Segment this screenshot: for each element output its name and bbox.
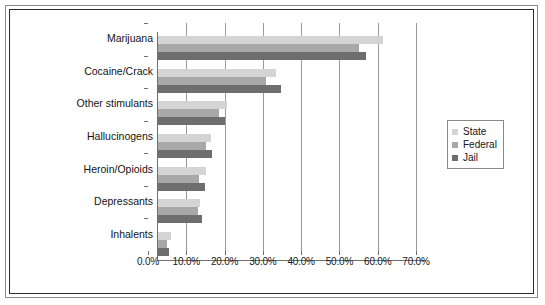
bar-federal bbox=[158, 207, 198, 215]
bar-federal bbox=[158, 175, 199, 183]
bar-state bbox=[158, 101, 227, 109]
legend-swatch-icon bbox=[452, 129, 458, 135]
legend-label: Federal bbox=[463, 139, 497, 150]
y-axis-category-label: Cocaine/Crack bbox=[13, 65, 153, 77]
bar-jail bbox=[158, 183, 205, 191]
bar-jail bbox=[158, 52, 366, 60]
bar-state bbox=[158, 36, 383, 44]
y-axis-category-label: Inhalents bbox=[13, 228, 153, 240]
legend-swatch-icon bbox=[452, 155, 458, 161]
y-axis-tick bbox=[144, 88, 148, 89]
y-axis-tick bbox=[144, 186, 148, 187]
bar-jail bbox=[158, 215, 202, 223]
y-axis-category-label: Hallucinogens bbox=[13, 130, 153, 142]
y-axis-category-label: Heroin/Opioids bbox=[13, 163, 153, 175]
legend-item-federal: Federal bbox=[452, 138, 497, 151]
y-axis-category-labels: MarijuanaCocaine/CrackOther stimulantsHa… bbox=[10, 10, 153, 260]
y-axis-tick bbox=[144, 23, 148, 24]
legend-item-jail: Jail bbox=[452, 151, 497, 164]
bar-federal bbox=[158, 44, 359, 52]
bar-federal bbox=[158, 240, 167, 248]
y-axis-category-label: Other stimulants bbox=[13, 97, 153, 109]
y-axis-tick bbox=[144, 218, 148, 219]
bar-federal bbox=[158, 109, 219, 117]
y-axis-tick bbox=[144, 153, 148, 154]
bar-jail bbox=[158, 248, 169, 256]
bar-jail bbox=[158, 150, 212, 158]
bar-federal bbox=[158, 77, 266, 85]
figure-inner-border: 0.0%10.0%20.0%30.0%40.0%50.0%60.0%70.0% … bbox=[9, 9, 534, 294]
y-axis-category-label: Depressants bbox=[13, 195, 153, 207]
bar-jail bbox=[158, 85, 281, 93]
y-axis-tick bbox=[144, 56, 148, 57]
bar-state bbox=[158, 69, 276, 77]
chart-legend: StateFederalJail bbox=[447, 120, 504, 169]
bar-state bbox=[158, 134, 211, 142]
bar-state bbox=[158, 199, 200, 207]
bar-jail bbox=[158, 117, 225, 125]
bar-state bbox=[158, 232, 171, 240]
bar-federal bbox=[158, 142, 206, 150]
chart-figure: 0.0%10.0%20.0%30.0%40.0%50.0%60.0%70.0% … bbox=[0, 0, 545, 305]
bar-state bbox=[158, 167, 206, 175]
plot-area bbox=[157, 32, 425, 260]
y-axis-category-label: Marijuana bbox=[13, 32, 153, 44]
legend-label: Jail bbox=[463, 152, 478, 163]
y-axis-tick bbox=[144, 121, 148, 122]
legend-label: State bbox=[463, 126, 486, 137]
legend-item-state: State bbox=[452, 125, 497, 138]
legend-swatch-icon bbox=[452, 142, 458, 148]
